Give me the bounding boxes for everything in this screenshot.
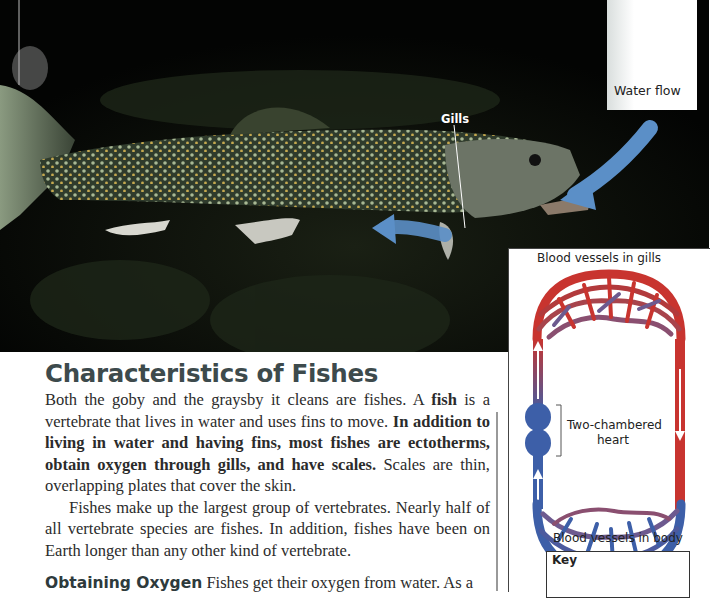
fish-eye [529, 154, 541, 166]
paragraph-1: Both the goby and the graysby it cleans … [45, 389, 490, 497]
water-flow-label: Water flow [614, 83, 681, 98]
section-heading: Characteristics of Fishes [45, 359, 490, 389]
circulation-diagram: Blood vessels in gills Two-chambered hea… [508, 248, 710, 592]
gills-label: Gills [441, 112, 469, 126]
paragraph-3: Obtaining Oxygen Fishes get their oxygen… [45, 572, 490, 595]
term-fish: fish [431, 390, 457, 409]
heart-label-line1: Two-chambered [567, 418, 662, 432]
body-vessels-label: Blood vessels in body [553, 531, 683, 545]
p1-text-a: Both the goby and the graysby it cleans … [45, 390, 431, 409]
key-title: Key [552, 553, 577, 567]
two-chambered-heart [525, 403, 551, 457]
article-content: Characteristics of Fishes Both the goby … [45, 359, 490, 595]
heart-bracket [556, 405, 561, 456]
subheading-obtaining-oxygen: Obtaining Oxygen [45, 574, 202, 592]
heart-label-line2: heart [597, 433, 629, 447]
column-divider [496, 412, 498, 591]
gill-vessels-label: Blood vessels in gills [537, 251, 661, 265]
diagram-key: Key [546, 551, 690, 598]
p3-text: Fishes get their oxygen from water. As a [202, 573, 473, 592]
gill-capillary-network [537, 274, 681, 339]
paragraph-2: Fishes make up the largest group of vert… [45, 497, 490, 562]
